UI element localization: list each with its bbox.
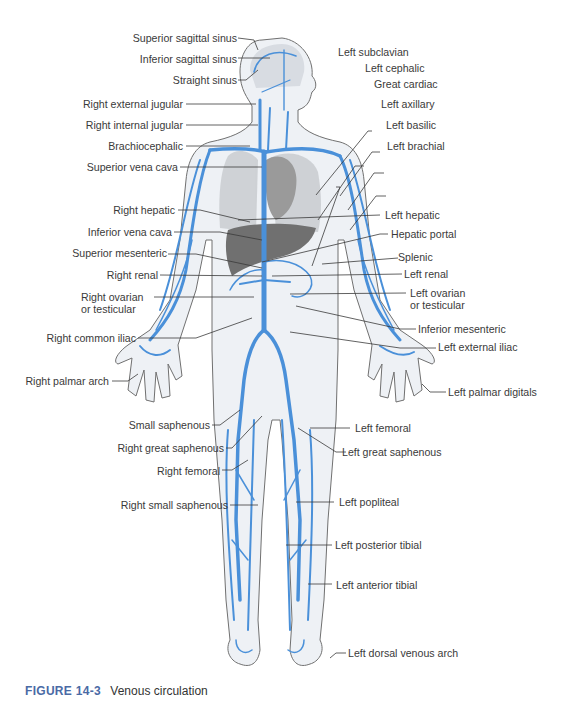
figure-caption: FIGURE 14-3 Venous circulation (25, 684, 208, 698)
label-left-femoral: Left femoral (355, 422, 411, 434)
label-left-renal: Left renal (404, 268, 448, 280)
label-left-external-iliac: Left external iliac (438, 341, 518, 353)
body-silhouette (116, 38, 435, 665)
label-left-posterior-tibial: Left posterior tibial (335, 539, 422, 551)
label-inferior-vena-cava: Inferior vena cava (88, 226, 172, 238)
label-left-palmar-digitals: Left palmar digitals (448, 386, 537, 398)
label-brachiocephalic: Brachiocephalic (108, 140, 183, 152)
label-superior-mesenteric: Superior mesenteric (72, 247, 167, 259)
figure-title: Venous circulation (110, 684, 207, 698)
label-right-ovarian-line2: or testicular (81, 303, 136, 315)
label-straight-sinus: Straight sinus (173, 74, 237, 86)
label-right-external-jugular: Right external jugular (83, 98, 183, 110)
label-right-renal: Right renal (107, 269, 158, 281)
label-right-femoral: Right femoral (157, 465, 220, 477)
label-superior-sagittal-sinus: Superior sagittal sinus (133, 32, 237, 44)
label-superior-vena-cava: Superior vena cava (87, 161, 178, 173)
label-left-brachial: Left brachial (387, 140, 445, 152)
label-inferior-mesenteric: Inferior mesenteric (418, 323, 506, 335)
label-splenic: Splenic (398, 251, 433, 263)
venous-circulation-diagram: Superior sagittal sinus Inferior sagitta… (0, 0, 571, 718)
label-right-small-saphenous: Right small saphenous (121, 499, 228, 511)
label-small-saphenous: Small saphenous (129, 419, 210, 431)
figure-number: FIGURE 14-3 (25, 684, 101, 698)
label-left-ovarian: Left ovarian (410, 287, 465, 299)
label-left-great-saphenous: Left great saphenous (342, 446, 442, 458)
label-right-hepatic: Right hepatic (113, 204, 175, 216)
label-right-palmar-arch: Right palmar arch (25, 375, 109, 387)
label-hepatic-portal: Hepatic portal (391, 228, 456, 240)
label-right-internal-jugular: Right internal jugular (86, 119, 183, 131)
label-left-popliteal: Left popliteal (339, 496, 399, 508)
label-right-ovarian: Right ovarian (81, 291, 143, 303)
label-great-cardiac: Great cardiac (374, 78, 438, 90)
label-left-ovarian-line2: or testicular (410, 299, 465, 311)
label-left-cephalic: Left cephalic (365, 62, 424, 74)
label-inferior-sagittal-sinus: Inferior sagittal sinus (140, 53, 237, 65)
label-left-subclavian: Left subclavian (338, 46, 409, 58)
label-left-dorsal-venous-arch: Left dorsal venous arch (348, 647, 458, 659)
label-left-basilic: Left basilic (386, 119, 436, 131)
label-left-hepatic: Left hepatic (385, 209, 440, 221)
label-left-anterior-tibial: Left anterior tibial (336, 579, 417, 591)
label-right-common-iliac: Right common iliac (47, 332, 137, 344)
label-left-axillary: Left axillary (381, 98, 435, 110)
label-right-great-saphenous: Right great saphenous (117, 442, 224, 454)
